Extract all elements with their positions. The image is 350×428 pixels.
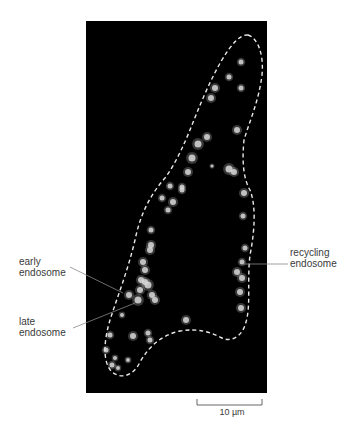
- label-line: endosome: [290, 258, 337, 269]
- endosome-spot: [149, 228, 154, 233]
- endosome-spot: [180, 185, 185, 190]
- endosome-spot: [110, 363, 115, 368]
- scale-bar-label: 10 µm: [212, 407, 252, 417]
- endosome-spot: [168, 184, 173, 189]
- endosome-spot: [243, 246, 248, 251]
- micrograph-figure: early endosome late endosome recycling e…: [0, 0, 350, 428]
- endosome-spot: [239, 86, 244, 91]
- endosome-spot: [130, 333, 136, 339]
- endosome-spot: [120, 313, 124, 317]
- label-line: recycling: [290, 247, 337, 258]
- endosome-spot: [142, 267, 148, 273]
- endosome-spot: [227, 75, 232, 80]
- label-line: endosome: [19, 327, 66, 338]
- endosome-spot: [126, 292, 132, 298]
- endosome-spot: [170, 199, 176, 205]
- endosome-spot: [116, 366, 120, 370]
- endosome-spot: [140, 259, 146, 265]
- early-endosome-label: early endosome: [19, 256, 66, 278]
- endosome-spot: [160, 196, 165, 201]
- endosome-spot: [204, 134, 210, 140]
- endosome-spot: [241, 190, 247, 196]
- label-line: late: [19, 316, 66, 327]
- scale-bar: [197, 399, 262, 405]
- endosome-spot: [241, 214, 246, 219]
- endosome-spot: [195, 141, 202, 148]
- endosome-spot: [239, 60, 244, 65]
- endosome-spot: [238, 305, 244, 311]
- endosome-spot: [113, 356, 117, 360]
- endosome-spot: [211, 165, 214, 168]
- endosome-spot: [212, 85, 218, 91]
- endosome-spot: [126, 358, 130, 362]
- endosome-spot: [237, 289, 243, 295]
- recycling-endosome-label: recycling endosome: [290, 247, 337, 269]
- endosome-spot: [234, 127, 240, 133]
- endosome-spot: [146, 331, 151, 336]
- endosome-spot: [166, 208, 171, 213]
- label-line: endosome: [19, 267, 66, 278]
- endosome-spot: [148, 338, 153, 343]
- endosome-spot: [239, 275, 245, 281]
- endosome-spot: [183, 317, 189, 323]
- micrograph-panel: [0, 0, 350, 428]
- label-line: early: [19, 256, 66, 267]
- endosome-spot: [135, 297, 142, 304]
- endosome-spot: [104, 348, 109, 353]
- endosome-spot: [231, 169, 237, 175]
- endosome-spot: [142, 279, 148, 285]
- endosome-spot: [189, 155, 196, 162]
- endosome-spot: [152, 297, 158, 303]
- endosome-spot: [147, 247, 153, 253]
- endosome-spot: [137, 287, 143, 293]
- late-endosome-label: late endosome: [19, 316, 66, 338]
- endosome-spot: [185, 169, 191, 175]
- endosome-spot: [108, 333, 113, 338]
- endosome-spot: [208, 95, 214, 101]
